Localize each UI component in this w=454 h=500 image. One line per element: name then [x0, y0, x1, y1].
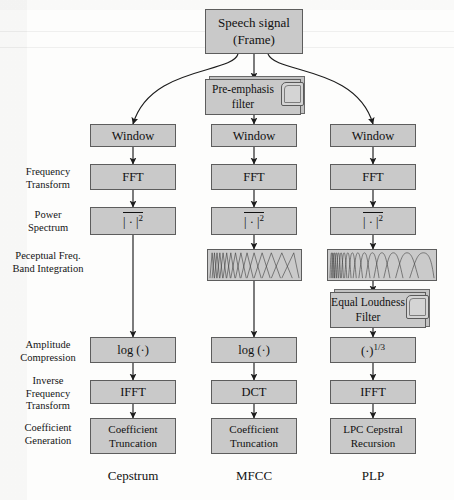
- bark-critical-band-filterbank-icon: [328, 250, 436, 280]
- node-cepstrum-log-compression: log (·): [90, 337, 176, 363]
- node-cepstrum-power-spectrum: | · |2: [90, 207, 176, 235]
- node-mfcc-coefficient-truncation: Coefficient Truncation: [211, 418, 297, 454]
- column-footer-cepstrum: Cepstrum: [73, 468, 193, 484]
- row-label-inverse-frequency-transform: Inverse Frequency Transform: [2, 375, 94, 413]
- node-cepstrum-ifft: IFFT: [90, 380, 176, 404]
- column-footer-plp: PLP: [313, 468, 433, 484]
- node-cepstrum-coefficient-truncation: Coefficient Truncation: [90, 418, 176, 454]
- node-speech-signal: Speech signal (Frame): [205, 9, 303, 54]
- row-label-coefficient-generation: Coefficient Generation: [2, 422, 94, 447]
- node-mfcc-power-spectrum: | · |2: [211, 207, 297, 235]
- node-cepstrum-fft: FFT: [90, 164, 176, 190]
- node-plp-window: Window: [330, 124, 416, 147]
- node-plp-power-spectrum: | · |2: [330, 207, 416, 235]
- node-plp-fft: FFT: [330, 164, 416, 190]
- node-mfcc-window: Window: [211, 124, 297, 147]
- equal-loudness-filter-icon: [406, 295, 429, 319]
- row-label-power-spectrum: Power Spectrum: [2, 209, 94, 234]
- node-mfcc-dct: DCT: [211, 380, 297, 404]
- node-plp-bark-filterbank: [327, 249, 437, 281]
- row-label-amplitude-compression: Amplitude Compression: [2, 339, 94, 364]
- mel-triangular-filterbank-icon: [208, 250, 301, 280]
- node-mfcc-fft: FFT: [211, 164, 297, 190]
- node-plp-ifft: IFFT: [330, 380, 416, 404]
- node-plp-lpc-cepstral-recursion: LPC Cepstral Recursion: [330, 418, 416, 454]
- node-mfcc-log-compression: log (·): [211, 337, 297, 363]
- node-plp-cube-root-compression: (·)1/3: [330, 337, 416, 363]
- flowchart-canvas: Speech signal (Frame) Frequency Transfor…: [0, 0, 454, 500]
- speech-signal-line1: Speech signal: [218, 15, 290, 30]
- node-mfcc-mel-filterbank: [207, 249, 302, 281]
- row-label-frequency-transform: Frequency Transform: [2, 166, 94, 191]
- node-cepstrum-window: Window: [90, 124, 176, 147]
- column-footer-mfcc: MFCC: [194, 468, 314, 484]
- preemphasis-filter-icon: [281, 82, 304, 106]
- speech-signal-line2: (Frame): [233, 32, 275, 47]
- row-label-perceptual-freq-band-integration: Peceptual Freq. Band Integration: [2, 250, 94, 275]
